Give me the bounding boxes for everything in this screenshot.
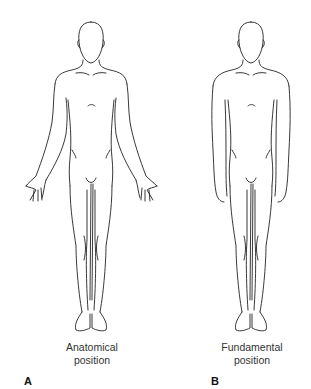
figure-anatomical-position — [26, 22, 157, 331]
caption-line1: Anatomical — [37, 341, 147, 354]
body-figures-diagram — [0, 0, 311, 389]
panel-label-a: A — [24, 375, 32, 387]
panel-label-b: B — [211, 375, 219, 387]
caption-anatomical: Anatomical position — [37, 341, 147, 367]
caption-line2: position — [37, 354, 147, 367]
caption-line2: position — [197, 354, 307, 367]
caption-fundamental: Fundamental position — [197, 341, 307, 367]
figure-fundamental-position — [212, 22, 290, 331]
caption-line1: Fundamental — [197, 341, 307, 354]
